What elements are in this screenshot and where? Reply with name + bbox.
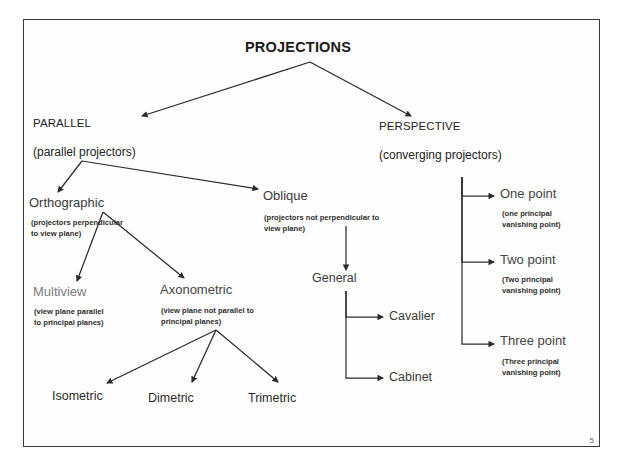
node-isometric-label: Isometric bbox=[52, 390, 103, 403]
node-one-point-label: One point bbox=[500, 187, 556, 201]
node-three-point-label: Three point bbox=[500, 334, 566, 348]
slide-page: PROJECTIONS PARALLEL (parallel projector… bbox=[0, 0, 620, 469]
node-oblique-caption: (projectors not perpendicular to view pl… bbox=[264, 212, 379, 234]
node-trimetric-label: Trimetric bbox=[248, 392, 296, 405]
node-multiview-caption: (view plane parallel to principal planes… bbox=[34, 306, 104, 328]
node-perspective-sublabel: (converging projectors) bbox=[379, 149, 502, 162]
node-orthographic-caption: (projectors perpendicular to view plane) bbox=[31, 217, 123, 239]
node-axonometric-label: Axonometric bbox=[160, 283, 232, 297]
node-general-label: General bbox=[312, 272, 356, 285]
node-perspective-label: PERSPECTIVE bbox=[379, 120, 461, 132]
node-oblique-label: Oblique bbox=[263, 189, 308, 203]
node-one-point-caption: (one principal vanishing point) bbox=[502, 208, 561, 230]
page-number: 5 bbox=[590, 436, 594, 445]
node-dimetric-label: Dimetric bbox=[148, 392, 194, 405]
node-two-point-label: Two point bbox=[500, 253, 556, 267]
node-three-point-caption: (Three principal vanishing point) bbox=[502, 356, 561, 378]
node-parallel-label: PARALLEL bbox=[33, 117, 91, 129]
node-axonometric-caption: (view plane not parallel to principal pl… bbox=[161, 305, 254, 327]
node-two-point-caption: (Two principal vanishing point) bbox=[502, 274, 561, 296]
node-multiview-label: Multiview bbox=[33, 285, 86, 299]
node-cabinet-label: Cabinet bbox=[389, 371, 432, 384]
node-cavalier-label: Cavalier bbox=[389, 310, 435, 323]
node-parallel-sublabel: (parallel projectors) bbox=[33, 146, 136, 159]
node-orthographic-label: Orthographic bbox=[29, 196, 104, 210]
diagram-title: PROJECTIONS bbox=[245, 40, 351, 55]
